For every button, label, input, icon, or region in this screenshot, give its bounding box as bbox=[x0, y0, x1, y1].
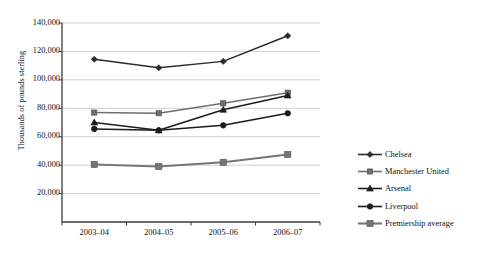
x-axis-tick-label: 2006–07 bbox=[248, 228, 328, 237]
chart-legend: ChelseaManchester UnitedArsenalLiverpool… bbox=[357, 146, 479, 232]
y-axis-tick-label: 20,000 bbox=[8, 189, 60, 197]
legend-marker-svg bbox=[357, 200, 383, 213]
legend-item-manchester-united[interactable]: Manchester United bbox=[357, 163, 479, 180]
legend-label: Manchester United bbox=[383, 167, 449, 176]
legend-label: Arsenal bbox=[383, 184, 411, 193]
series-line bbox=[94, 93, 288, 114]
data-point-marker-square bbox=[156, 111, 161, 116]
data-point-marker-circle bbox=[91, 126, 97, 132]
data-point-marker-square bbox=[92, 110, 97, 115]
legend-marker-icon bbox=[357, 182, 383, 195]
series-liverpool bbox=[91, 110, 290, 133]
legend-label: Chelsea bbox=[383, 150, 412, 159]
legend-marker-icon bbox=[357, 148, 383, 161]
y-axis-tick-label: 60,000 bbox=[8, 132, 60, 140]
series-manchester-united bbox=[92, 90, 291, 116]
legend-marker-svg bbox=[357, 217, 383, 230]
legend-marker-svg bbox=[357, 182, 383, 195]
data-point-marker-square bbox=[221, 101, 226, 106]
series-line bbox=[94, 113, 288, 130]
data-point-marker-square bbox=[285, 151, 291, 157]
legend-item-liverpool[interactable]: Liverpool bbox=[357, 198, 479, 215]
data-point-marker-diamond bbox=[91, 56, 97, 62]
legend-item-chelsea[interactable]: Chelsea bbox=[357, 146, 479, 163]
plot-area bbox=[62, 23, 320, 222]
legend-item-premiership-average[interactable]: Premiership average bbox=[357, 215, 479, 232]
legend-label: Premiership average bbox=[383, 219, 454, 228]
data-point-marker-square bbox=[220, 159, 226, 165]
data-point-marker-square bbox=[367, 220, 373, 226]
legend-marker-svg bbox=[357, 165, 383, 178]
data-point-marker-circle bbox=[285, 110, 291, 116]
legend-label: Liverpool bbox=[383, 202, 418, 211]
y-axis-tick-label: 140,000 bbox=[8, 19, 60, 27]
data-point-marker-circle bbox=[367, 203, 373, 209]
series-premiership-average bbox=[91, 151, 291, 169]
plot-svg bbox=[62, 23, 320, 222]
legend-marker-icon bbox=[357, 200, 383, 213]
y-axis-tick-labels: 20,00040,00060,00080,000100,000120,00014… bbox=[8, 0, 60, 254]
data-point-marker-square bbox=[367, 169, 372, 174]
y-axis-tick-label: 80,000 bbox=[8, 104, 60, 112]
y-axis-tick-label: 100,000 bbox=[8, 75, 60, 83]
data-point-marker-diamond bbox=[220, 58, 226, 64]
legend-marker-svg bbox=[357, 148, 383, 161]
data-point-marker-diamond bbox=[367, 151, 373, 157]
legend-marker-icon bbox=[357, 217, 383, 230]
data-point-marker-diamond bbox=[156, 65, 162, 71]
legend-item-arsenal[interactable]: Arsenal bbox=[357, 180, 479, 197]
data-point-marker-square bbox=[156, 163, 162, 169]
data-point-marker-circle bbox=[220, 123, 226, 129]
data-point-marker-square bbox=[91, 161, 97, 167]
chart-container: Thousands of pounds sterling 20,00040,00… bbox=[0, 0, 479, 254]
data-point-marker-circle bbox=[156, 128, 162, 134]
y-axis-tick-label: 40,000 bbox=[8, 161, 60, 169]
legend-marker-icon bbox=[357, 165, 383, 178]
y-axis-tick-label: 120,000 bbox=[8, 47, 60, 55]
data-point-marker-diamond bbox=[285, 33, 291, 39]
